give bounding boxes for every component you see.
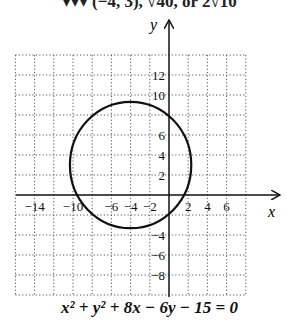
x-tick-label: −14 <box>24 199 45 214</box>
y-tick-label: −6 <box>151 248 165 263</box>
x-tick-label: −10 <box>63 199 83 214</box>
grid <box>15 55 245 295</box>
y-tick-label: 10 <box>152 88 165 103</box>
x-tick-label: 6 <box>223 199 230 214</box>
x-axis-label: x <box>267 203 275 220</box>
equation-caption: x² + y² + 8x − 6y − 15 = 0 <box>0 298 299 318</box>
coordinate-plane: −14−10−6−4−22461210642−4−6−8 x y <box>0 0 299 326</box>
y-tick-label: −4 <box>151 228 165 243</box>
y-tick-label: 4 <box>159 148 166 163</box>
y-tick-label: −8 <box>151 268 165 283</box>
x-tick-label: 4 <box>204 199 211 214</box>
y-tick-label: 2 <box>159 168 166 183</box>
x-tick-label: −4 <box>124 199 138 214</box>
y-tick-label: 6 <box>159 128 166 143</box>
y-axis-label: y <box>148 16 158 34</box>
x-tick-label: −2 <box>143 199 157 214</box>
x-tick-label: 2 <box>185 199 192 214</box>
x-tick-label: −6 <box>104 199 118 214</box>
y-tick-label: 12 <box>152 68 165 83</box>
